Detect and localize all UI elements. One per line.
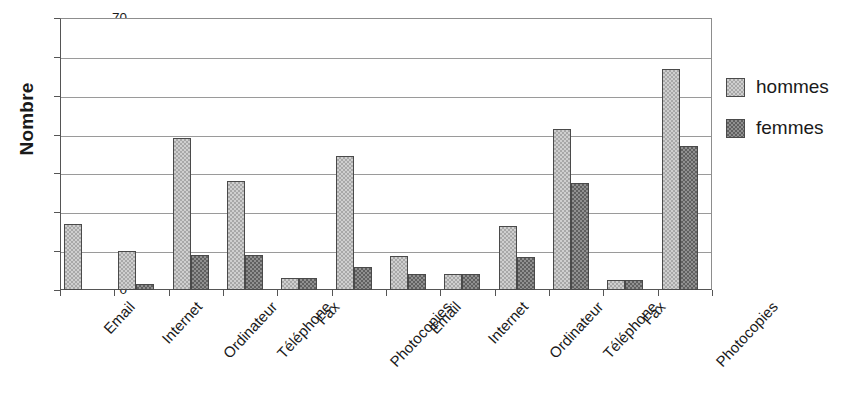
bar-femmes bbox=[191, 255, 209, 290]
x-tick-mark bbox=[495, 290, 496, 296]
bar-group bbox=[658, 18, 712, 290]
x-tick-mark bbox=[169, 290, 170, 296]
bar-hommes bbox=[662, 69, 680, 290]
legend-swatch-hommes bbox=[726, 78, 745, 97]
bar-hommes bbox=[499, 226, 517, 290]
bar-femmes bbox=[517, 257, 535, 290]
bar-femmes bbox=[625, 280, 643, 290]
x-tick-mark bbox=[549, 290, 550, 296]
bar-femmes bbox=[408, 274, 426, 290]
y-axis-title: Nombre bbox=[16, 64, 38, 174]
bar-hommes bbox=[336, 156, 354, 290]
legend-entry-femmes: femmes bbox=[726, 117, 836, 139]
bar-hommes bbox=[390, 256, 408, 290]
x-tick-mark bbox=[277, 290, 278, 296]
bar-femmes bbox=[680, 146, 698, 290]
x-axis-label: Email bbox=[100, 298, 138, 337]
bar-hommes bbox=[118, 251, 136, 290]
x-axis-label: Email bbox=[426, 298, 464, 337]
bar-femmes bbox=[299, 278, 317, 290]
bars-layer bbox=[60, 18, 712, 290]
bar-hommes bbox=[64, 224, 82, 290]
bar-hommes bbox=[553, 129, 571, 290]
bar-group bbox=[549, 18, 603, 290]
bar-group bbox=[277, 18, 331, 290]
x-tick-mark bbox=[603, 290, 604, 296]
bar-group bbox=[60, 18, 114, 290]
x-tick-mark bbox=[440, 290, 441, 296]
x-tick-mark bbox=[658, 290, 659, 296]
bar-chart: Nombre 706050403020100 EmailInternetOrdi… bbox=[0, 0, 843, 406]
bar-femmes bbox=[462, 274, 480, 290]
x-axis-label: Photocopies bbox=[712, 298, 781, 370]
bar-group bbox=[114, 18, 168, 290]
bar-group bbox=[386, 18, 440, 290]
bar-femmes bbox=[245, 255, 263, 290]
bar-group bbox=[440, 18, 494, 290]
bar-hommes bbox=[173, 138, 191, 290]
x-tick-mark bbox=[332, 290, 333, 296]
legend: hommes femmes bbox=[726, 76, 836, 158]
x-tick-mark bbox=[114, 290, 115, 296]
legend-swatch-femmes bbox=[726, 119, 745, 138]
bar-group bbox=[603, 18, 657, 290]
x-axis-label: Internet bbox=[159, 298, 206, 347]
bar-group bbox=[223, 18, 277, 290]
bar-hommes bbox=[444, 274, 462, 290]
bar-hommes bbox=[607, 280, 625, 290]
x-axis-labels: EmailInternetOrdinateurTéléphoneFaxPhoto… bbox=[60, 290, 712, 406]
bar-femmes bbox=[571, 183, 589, 290]
x-tick-mark bbox=[712, 290, 713, 296]
legend-label-femmes: femmes bbox=[756, 117, 824, 139]
legend-entry-hommes: hommes bbox=[726, 76, 836, 98]
x-tick-mark bbox=[60, 290, 61, 296]
x-axis-label: Ordinateur bbox=[219, 298, 280, 361]
x-tick-mark bbox=[223, 290, 224, 296]
x-axis-label: Ordinateur bbox=[545, 298, 606, 361]
bar-hommes bbox=[281, 278, 299, 290]
bar-group bbox=[495, 18, 549, 290]
bar-group bbox=[169, 18, 223, 290]
x-tick-mark bbox=[386, 290, 387, 296]
x-axis-label: Internet bbox=[485, 298, 532, 347]
bar-femmes bbox=[354, 267, 372, 290]
bar-hommes bbox=[227, 181, 245, 290]
bar-group bbox=[332, 18, 386, 290]
legend-label-hommes: hommes bbox=[756, 76, 829, 98]
